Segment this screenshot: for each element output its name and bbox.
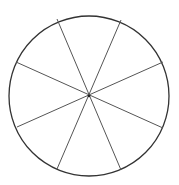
spoke-lines [16, 19, 163, 170]
center-point [88, 95, 91, 98]
sector-diagram [0, 0, 179, 185]
